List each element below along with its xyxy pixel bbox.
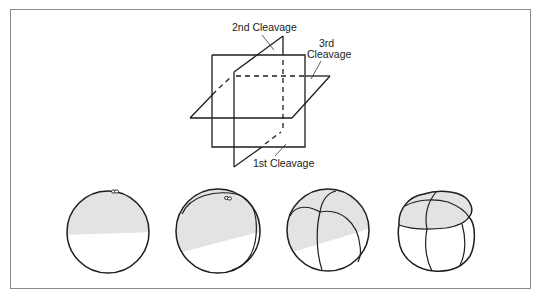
label-text-line2: Cleavage — [307, 48, 352, 60]
stage-zygote — [60, 185, 155, 273]
cleavage-figure: 2nd Cleavage 3rd Cleavage 1st Cleavage — [0, 0, 543, 301]
polar-body-icon — [112, 190, 119, 193]
stage-two-cell — [170, 185, 270, 273]
label-text: 2nd Cleavage — [232, 21, 297, 33]
cleavage-planes-diagram: 2nd Cleavage 3rd Cleavage 1st Cleavage — [190, 21, 352, 169]
polar-body-icon — [225, 196, 232, 200]
animal-hemisphere-shading — [280, 185, 378, 256]
first-cleavage-plane — [212, 55, 305, 147]
lower-furrow-1 — [426, 229, 432, 271]
label-third-cleavage: 3rd Cleavage — [307, 37, 352, 79]
lower-furrow-2 — [460, 224, 465, 265]
label-second-cleavage: 2nd Cleavage — [232, 21, 297, 50]
stage-eight-cell — [398, 191, 474, 271]
third-cleavage-plane — [190, 76, 330, 118]
label-text: 1st Cleavage — [253, 157, 314, 169]
stage-four-cell — [280, 185, 378, 271]
animal-hemisphere-shading — [170, 185, 270, 256]
label-first-cleavage: 1st Cleavage — [253, 144, 314, 169]
